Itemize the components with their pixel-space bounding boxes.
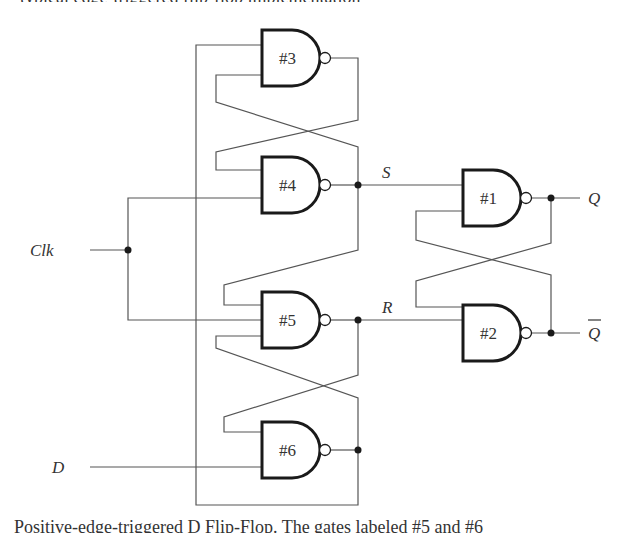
gate-5-label: #5: [279, 311, 296, 330]
d-flip-flop-circuit: #3 #4 #5 #6 #1 #2 Clk D S R Q Q: [0, 0, 627, 533]
q-label: Q: [588, 189, 600, 208]
gate-3-label: #3: [279, 49, 296, 68]
clk-junction-node: [125, 247, 132, 254]
gate-6-label: #6: [279, 441, 296, 460]
qbar-label: Q: [588, 324, 600, 343]
nand-gate-2: #2: [463, 305, 532, 361]
gate6-junction-node: [355, 447, 362, 454]
nand-gate-3: #3: [262, 30, 331, 86]
s-label: S: [382, 163, 391, 182]
clk-label: Clk: [30, 241, 54, 260]
nand-gate-1: #1: [463, 170, 532, 226]
gate-1-label: #1: [480, 189, 497, 208]
qbar-junction-node: [548, 330, 555, 337]
nand-gate-4: #4: [262, 157, 331, 213]
nand-gate-6: #6: [262, 422, 331, 478]
q-junction-node: [548, 195, 555, 202]
r-label: R: [381, 298, 393, 317]
clk-wiring: [90, 198, 262, 320]
nand-gate-5: #5: [262, 292, 331, 348]
r-junction-node: [355, 317, 362, 324]
bottom-caption-fragment: Positive-edge-triggered D Flip-Flop. The…: [0, 518, 627, 533]
s-junction-node: [355, 182, 362, 189]
gate-2-label: #2: [480, 324, 497, 343]
gate-4-label: #4: [279, 176, 297, 195]
d-label: D: [51, 458, 65, 477]
